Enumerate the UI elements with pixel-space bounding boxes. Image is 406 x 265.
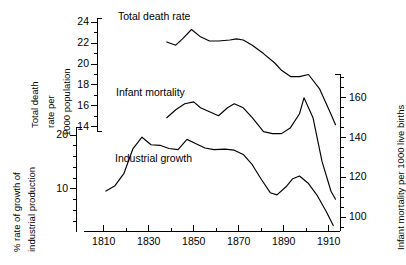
axis-title-industrial-growth-line1: % rate of growth of (12, 172, 22, 252)
series-label-industrial-growth: Industrial growth (115, 152, 192, 164)
axis-title-industrial-growth-line2: industrial production (27, 167, 37, 252)
axis-title-death-rate-line3: 1000 population (62, 68, 72, 136)
axis-title-death-rate-line2: rate per (46, 95, 56, 128)
ytick-industrial-20: 20 (56, 128, 68, 140)
xtick-1850: 1850 (169, 235, 219, 247)
ytick-death-16: 16 (77, 99, 89, 111)
xtick-1830: 1830 (124, 235, 174, 247)
ytick-infant-100: 100 (349, 210, 367, 222)
xtick-1810: 1810 (79, 235, 129, 247)
axis-title-infant-mortality: Infant mortality per 1000 live births (396, 105, 406, 250)
ytick-infant-120: 120 (349, 170, 367, 182)
series-label-total-death-rate: Total death rate (118, 10, 190, 22)
ytick-death-22: 22 (77, 36, 89, 48)
ytick-infant-160: 160 (349, 91, 367, 103)
ytick-infant-140: 140 (349, 131, 367, 143)
xtick-1870: 1870 (214, 235, 264, 247)
ytick-death-24: 24 (77, 15, 89, 27)
chart-figure: Total death rate per 1000 population % r… (0, 0, 406, 265)
axis-title-death-rate-line1: Total death (30, 82, 40, 128)
xtick-1890: 1890 (259, 235, 309, 247)
ytick-industrial-10: 10 (56, 182, 68, 194)
xtick-1910: 1910 (304, 235, 354, 247)
series-layer (106, 30, 336, 226)
ytick-death-20: 20 (77, 57, 89, 69)
axes-layer (70, 18, 346, 232)
series-curve-industrial-growth (106, 137, 333, 225)
series-label-infant-mortality: Infant mortality (116, 86, 185, 98)
ytick-death-14: 14 (77, 120, 89, 132)
ytick-death-18: 18 (77, 78, 89, 90)
series-curve-infant-mortality (167, 98, 336, 199)
